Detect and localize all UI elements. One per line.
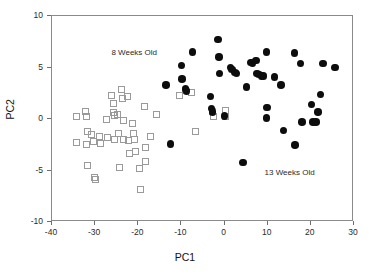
data-point-open-square: [132, 148, 139, 155]
data-point-filled-circle: [189, 48, 197, 56]
data-point-filled-circle: [215, 53, 223, 61]
x-tick-mark: [353, 221, 354, 225]
data-point-open-square: [118, 86, 125, 93]
data-point-filled-circle: [314, 108, 322, 116]
data-point-filled-circle: [271, 73, 279, 81]
x-axis-label: PC1: [0, 252, 370, 263]
data-point-filled-circle: [331, 64, 339, 72]
data-point-filled-circle: [319, 60, 327, 68]
data-point-open-square: [153, 111, 160, 118]
data-point-open-square: [141, 103, 148, 110]
data-point-open-square: [192, 128, 199, 135]
data-point-open-square: [96, 133, 103, 140]
y-tick-mark: [47, 118, 51, 119]
data-point-filled-circle: [243, 83, 251, 91]
x-tick-label: -20: [120, 228, 154, 237]
data-point-open-square: [116, 164, 123, 171]
data-point-open-square: [84, 162, 91, 169]
y-tick-label: 0: [17, 114, 43, 123]
data-point-filled-circle: [291, 49, 299, 57]
y-tick-label: 10: [17, 11, 43, 20]
y-tick-label: -10: [17, 217, 43, 226]
data-point-filled-circle: [312, 118, 320, 126]
data-point-filled-circle: [178, 75, 186, 83]
data-point-open-square: [129, 120, 136, 127]
y-tick-mark: [47, 170, 51, 171]
x-tick-label: -10: [163, 228, 197, 237]
data-point-open-square: [142, 144, 149, 151]
data-point-filled-circle: [209, 108, 217, 116]
x-tick-label: 0: [207, 228, 241, 237]
data-point-open-square: [83, 113, 90, 120]
annotation-13-weeks-old: 13 Weeks Old: [265, 169, 315, 177]
data-point-open-square: [88, 131, 95, 138]
data-point-filled-circle: [167, 140, 175, 148]
data-point-open-square: [110, 100, 117, 107]
data-point-open-square: [142, 158, 149, 165]
data-point-filled-circle: [162, 81, 170, 89]
data-point-open-square: [124, 93, 131, 100]
data-point-open-square: [73, 139, 80, 146]
x-tick-mark: [94, 221, 95, 225]
data-point-filled-circle: [221, 112, 229, 120]
data-point-filled-circle: [263, 48, 271, 56]
data-point-filled-circle: [183, 87, 191, 95]
data-point-open-square: [103, 116, 110, 123]
y-tick-label: -5: [17, 166, 43, 175]
annotation-8-weeks-old: 8 Weeks Old: [111, 49, 157, 57]
plot-area-frame: [51, 15, 353, 221]
data-point-filled-circle: [298, 118, 306, 126]
data-point-open-square: [137, 186, 144, 193]
x-tick-label: -30: [77, 228, 111, 237]
data-point-open-square: [147, 133, 154, 140]
scatter-plot-figure: -40-30-20-100102030 -10-50510 8 Weeks Ol…: [0, 0, 370, 280]
data-point-filled-circle: [252, 57, 260, 65]
y-tick-mark: [47, 67, 51, 68]
data-point-open-square: [97, 140, 104, 147]
data-point-open-square: [111, 136, 118, 143]
x-tick-mark: [180, 221, 181, 225]
data-point-open-square: [136, 165, 143, 172]
x-tick-mark: [224, 221, 225, 225]
x-tick-mark: [310, 221, 311, 225]
data-point-open-square: [131, 136, 138, 143]
x-tick-label: 10: [250, 228, 284, 237]
data-point-filled-circle: [239, 159, 247, 167]
x-tick-mark: [267, 221, 268, 225]
x-tick-label: 20: [293, 228, 327, 237]
y-tick-mark: [47, 15, 51, 16]
y-axis-label: PC2: [5, 89, 16, 129]
x-tick-label: -40: [34, 228, 68, 237]
y-tick-label: 5: [17, 63, 43, 72]
data-point-filled-circle: [277, 81, 285, 89]
data-point-open-square: [104, 134, 111, 141]
data-point-open-square: [120, 117, 127, 124]
y-tick-mark: [47, 221, 51, 222]
x-tick-label: 30: [336, 228, 370, 237]
data-point-open-square: [73, 113, 80, 120]
data-point-filled-circle: [291, 141, 299, 149]
data-point-open-square: [108, 92, 115, 99]
x-tick-mark: [51, 221, 52, 225]
data-point-filled-circle: [260, 72, 268, 80]
x-tick-mark: [137, 221, 138, 225]
data-point-open-square: [92, 176, 99, 183]
